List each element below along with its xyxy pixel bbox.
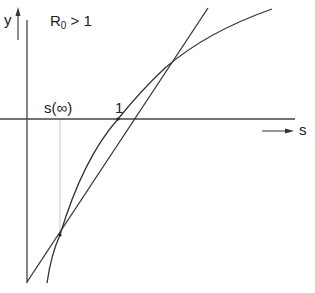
s-axis-arrow-icon xyxy=(262,129,294,134)
tick-one-dot xyxy=(116,117,119,120)
concave-curve xyxy=(47,9,272,283)
fixed-point-dot xyxy=(58,233,61,236)
s-infinity-label: s(∞) xyxy=(44,100,72,115)
s-axis-label: s xyxy=(299,122,307,137)
y-axis-label: y xyxy=(4,12,12,27)
y-axis-arrow-icon xyxy=(16,7,21,40)
diagram-canvas xyxy=(0,0,315,293)
straight-line xyxy=(27,8,208,282)
diagram-title: R0 > 1 xyxy=(50,13,92,31)
tick-one-label: 1 xyxy=(115,100,123,115)
title-rest: > 1 xyxy=(66,12,91,29)
title-main: R xyxy=(50,12,61,29)
